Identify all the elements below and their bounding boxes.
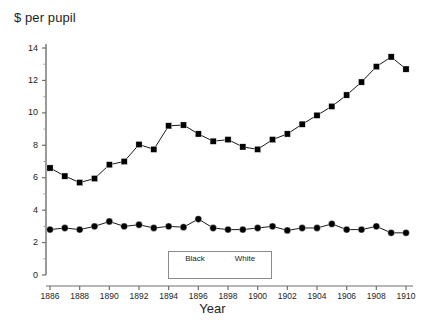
data-point-black[interactable] — [314, 225, 321, 232]
data-point-black[interactable] — [91, 223, 98, 230]
y-axis-tick-label: 0 — [12, 271, 38, 280]
data-point-black[interactable] — [165, 223, 172, 230]
data-point-white[interactable] — [210, 138, 216, 144]
data-point-black[interactable] — [225, 226, 232, 233]
x-axis-title: Year — [0, 301, 425, 316]
data-point-white[interactable] — [106, 162, 112, 168]
y-axis-tick-label: 2 — [12, 238, 38, 247]
data-point-black[interactable] — [403, 229, 410, 236]
data-point-white[interactable] — [77, 179, 83, 185]
data-point-white[interactable] — [151, 146, 157, 152]
data-point-black[interactable] — [106, 218, 113, 225]
data-point-white[interactable] — [299, 121, 305, 127]
y-axis-tick-label: 14 — [12, 44, 38, 53]
y-axis-tick-label: 6 — [12, 173, 38, 182]
data-point-black[interactable] — [180, 224, 187, 231]
data-point-black[interactable] — [343, 226, 350, 233]
chart-container: $ per pupil 02468101214 1886188818901892… — [0, 0, 425, 326]
data-point-black[interactable] — [373, 223, 380, 230]
data-point-white[interactable] — [240, 144, 246, 150]
data-point-white[interactable] — [136, 141, 142, 147]
data-point-white[interactable] — [91, 175, 97, 181]
legend-item-white: White — [220, 253, 270, 279]
data-point-white[interactable] — [284, 131, 290, 137]
data-point-white[interactable] — [269, 137, 275, 143]
legend-label-black: Black — [170, 254, 220, 264]
data-point-white[interactable] — [314, 112, 320, 118]
data-point-black[interactable] — [121, 223, 128, 230]
data-point-black[interactable] — [388, 229, 395, 236]
data-point-black[interactable] — [284, 227, 291, 234]
data-point-black[interactable] — [150, 225, 157, 232]
data-point-black[interactable] — [299, 225, 306, 232]
data-point-white[interactable] — [344, 92, 350, 98]
data-point-white[interactable] — [180, 122, 186, 128]
y-axis-tick-label: 12 — [12, 76, 38, 85]
data-point-white[interactable] — [225, 137, 231, 143]
data-point-black[interactable] — [195, 216, 202, 223]
data-point-black[interactable] — [358, 226, 365, 233]
data-point-white[interactable] — [388, 54, 394, 60]
legend-label-white: White — [220, 254, 270, 264]
data-point-white[interactable] — [403, 66, 409, 72]
legend-item-black: Black — [170, 253, 220, 279]
y-axis-tick-label: 4 — [12, 206, 38, 215]
data-point-black[interactable] — [254, 225, 261, 232]
chart-legend: Black White — [168, 251, 272, 279]
data-point-white[interactable] — [329, 103, 335, 109]
data-point-white[interactable] — [255, 146, 261, 152]
data-point-black[interactable] — [61, 225, 68, 232]
data-point-black[interactable] — [47, 226, 54, 233]
data-point-black[interactable] — [239, 226, 246, 233]
data-point-black[interactable] — [328, 221, 335, 228]
data-point-black[interactable] — [269, 223, 276, 230]
series-line-white — [50, 57, 406, 183]
data-point-white[interactable] — [121, 158, 127, 164]
data-point-white[interactable] — [47, 165, 53, 171]
data-point-black[interactable] — [76, 226, 83, 233]
x-axis-tick-label: 1910 — [386, 292, 425, 301]
data-point-white[interactable] — [166, 123, 172, 129]
data-point-white[interactable] — [358, 79, 364, 85]
data-point-white[interactable] — [195, 131, 201, 137]
data-point-white[interactable] — [373, 64, 379, 70]
data-point-black[interactable] — [136, 221, 143, 228]
y-axis-tick-label: 10 — [12, 108, 38, 117]
data-point-white[interactable] — [62, 173, 68, 179]
data-point-black[interactable] — [210, 225, 217, 232]
y-axis-tick-label: 8 — [12, 141, 38, 150]
